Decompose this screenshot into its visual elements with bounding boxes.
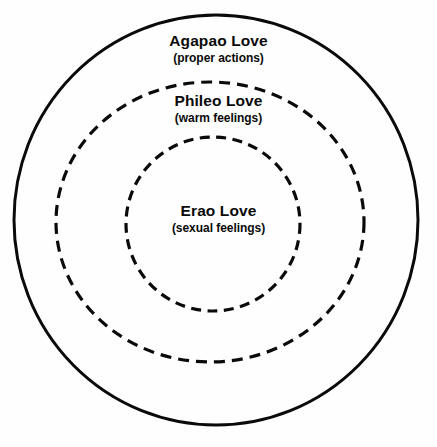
diagram-canvas: Agapao Love (proper actions) Phileo Love… xyxy=(0,0,437,447)
label-phileo: Phileo Love (warm feelings) xyxy=(0,93,437,124)
label-agapao-subtitle: (proper actions) xyxy=(0,52,437,64)
label-phileo-title: Phileo Love xyxy=(0,93,437,109)
label-erao-subtitle: (sexual feelings) xyxy=(0,222,437,234)
label-phileo-subtitle: (warm feelings) xyxy=(0,112,437,124)
label-erao-title: Erao Love xyxy=(0,203,437,219)
label-erao: Erao Love (sexual feelings) xyxy=(0,203,437,234)
label-agapao-title: Agapao Love xyxy=(0,33,437,49)
label-agapao: Agapao Love (proper actions) xyxy=(0,33,437,64)
